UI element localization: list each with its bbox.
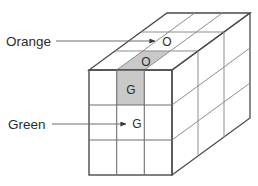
top-face-shaded-letter-O: O <box>141 55 150 69</box>
right-face-row-line-2 <box>172 83 250 140</box>
orange-label: Orange <box>6 34 51 49</box>
top-face-arrow-letter-O: O <box>162 35 171 49</box>
front-face-arrow-letter-G: G <box>132 117 141 131</box>
right-face-row-line-1 <box>172 48 250 105</box>
right-face-group <box>172 13 250 175</box>
right-face-outline <box>172 13 250 175</box>
front-face-shaded-letter-G: G <box>126 83 135 97</box>
diagram-canvas: Orange Green O O G G <box>0 0 258 186</box>
cube-diagram: Orange Green O O G G <box>0 0 258 186</box>
green-label: Green <box>8 117 46 132</box>
